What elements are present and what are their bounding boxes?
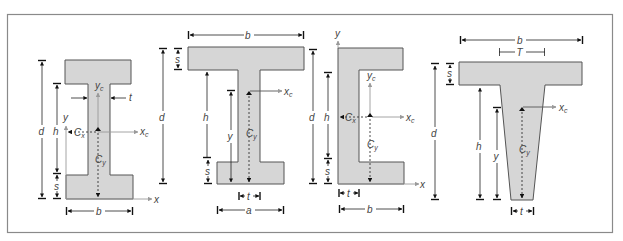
label-b: b: [367, 204, 373, 215]
diagram-canvas: x y yc xc Cx Cy t d h s b: [0, 0, 623, 241]
label-b: b: [245, 30, 251, 41]
label-h: h: [203, 112, 209, 123]
label-a: a: [246, 205, 252, 216]
label-y: y: [62, 112, 69, 123]
label-d: d: [159, 112, 165, 123]
label-b: b: [96, 206, 102, 217]
label-y: y: [227, 131, 234, 142]
label-s-top: s: [175, 54, 180, 65]
label-s: s: [54, 181, 59, 192]
label-h: h: [53, 126, 59, 137]
label-x: x: [419, 179, 426, 190]
label-s-bottom: s: [205, 166, 210, 177]
label-s: s: [447, 68, 452, 79]
label-T: T: [517, 47, 524, 58]
label-y: y: [334, 28, 341, 39]
label-x: x: [153, 194, 160, 205]
label-s: s: [325, 166, 330, 177]
label-h: h: [324, 112, 330, 123]
label-y: y: [493, 151, 500, 162]
label-d: d: [39, 126, 45, 137]
label-d: d: [309, 112, 315, 123]
label-b: b: [517, 35, 523, 46]
label-d: d: [431, 128, 437, 139]
label-h: h: [476, 141, 482, 152]
